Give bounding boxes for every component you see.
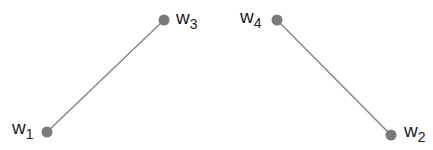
label-w4: w4: [240, 7, 262, 30]
node-w3: [159, 15, 170, 26]
edge-w4-w2: [277, 20, 391, 135]
edge-w1-w3: [47, 20, 164, 132]
label-w2: w2: [404, 121, 426, 144]
node-w1: [42, 127, 53, 138]
node-w4: [272, 15, 283, 26]
graph-edges-layer: [0, 0, 433, 150]
graph-diagram: w1 w3 w4 w2: [0, 0, 433, 150]
label-w1: w1: [12, 118, 34, 141]
node-w2: [386, 130, 397, 141]
label-w3: w3: [176, 8, 198, 31]
